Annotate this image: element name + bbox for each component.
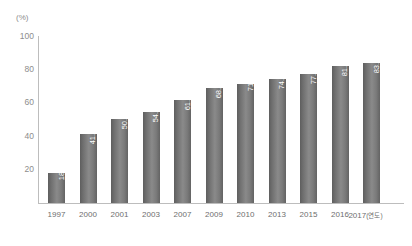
bar-value-label: 61.7 (183, 96, 192, 111)
y-tick-20: 20 (12, 165, 34, 174)
bar-2010[interactable]: 71 (237, 84, 254, 203)
bar-2000[interactable]: 41.5 (80, 134, 97, 203)
bar-value-label: 18 (57, 172, 66, 180)
bar-series: 18199741.5200050.4200154.7200361.7200768… (38, 0, 404, 246)
y-tick-100: 100 (12, 32, 34, 41)
bar-value-label: 74.4 (277, 74, 286, 89)
y-tick-40: 40 (12, 132, 34, 141)
bar-value-label: 68.7 (214, 84, 223, 99)
bar-2015[interactable]: 77.2 (300, 74, 317, 203)
bar-value-label: 54.7 (151, 107, 160, 122)
y-tick-60: 60 (12, 98, 34, 107)
x-tick-2017: 2017(연도) (343, 210, 389, 220)
bar-2001[interactable]: 50.4 (111, 119, 128, 203)
bar-2016[interactable]: 81.9 (332, 66, 349, 203)
bar-value-label: 77.2 (309, 70, 318, 85)
bar-2003[interactable]: 54.7 (143, 112, 160, 203)
x-axis-unit-note: (연도) (366, 212, 382, 219)
bar-2007[interactable]: 61.7 (174, 100, 191, 203)
bar-value-label: 71 (246, 83, 255, 91)
bar-2017[interactable]: 83.8 (363, 63, 380, 203)
bar-2013[interactable]: 74.4 (269, 79, 286, 203)
bar-chart: (%) 10080604020 18199741.5200050.4200154… (0, 0, 412, 246)
bar-value-label: 41.5 (88, 129, 97, 144)
y-axis-tick-labels: 10080604020 (10, 0, 34, 246)
bar-2009[interactable]: 68.7 (206, 88, 223, 203)
bar-value-label: 83.8 (372, 59, 381, 74)
bar-value-label: 50.4 (120, 115, 129, 130)
y-tick-80: 80 (12, 65, 34, 74)
bar-value-label: 81.9 (340, 62, 349, 77)
bar-1997[interactable]: 18 (48, 173, 65, 203)
